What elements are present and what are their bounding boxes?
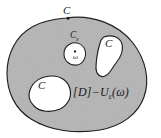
region-diagram-svg	[0, 0, 161, 138]
label-omega-point: ω	[73, 54, 78, 61]
formula-argument-omega: ω	[116, 85, 125, 99]
label-region-formula: [D]−Uε(ω)	[73, 86, 129, 101]
hole-boundary-left	[29, 76, 70, 111]
formula-domain-symbol: D	[78, 85, 87, 99]
label-left-hole-curve-c: C	[38, 80, 45, 91]
boundary-orientation-dot	[67, 17, 70, 20]
formula-minus-sign: −	[92, 85, 100, 99]
label-epsilon-circle: Cε	[70, 31, 79, 42]
formula-u-symbol: U	[100, 85, 109, 99]
label-right-hole-curve-c: C	[105, 38, 112, 49]
region-texture-overlay	[0, 0, 161, 138]
math-region-figure: C C C Cε ω [D]−Uε(ω)	[0, 0, 161, 138]
label-outer-curve-c: C	[63, 5, 70, 16]
label-epsilon-circle-subscript: ε	[76, 35, 79, 42]
formula-paren-close: )	[125, 85, 129, 99]
